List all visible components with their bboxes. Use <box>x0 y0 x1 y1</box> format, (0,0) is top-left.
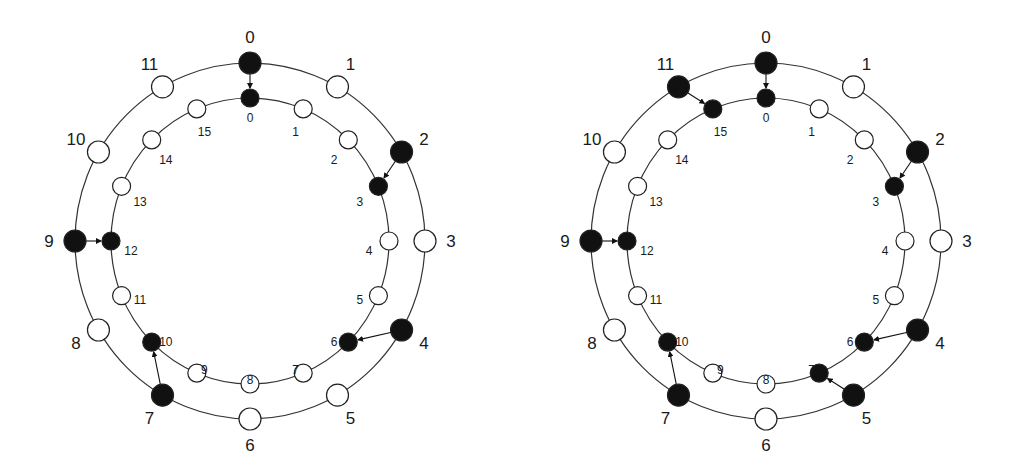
inner-node-label: 11 <box>134 293 147 307</box>
inner-node-label: 10 <box>159 335 173 349</box>
inner-node-14-empty <box>659 131 677 149</box>
outer-node-11-empty <box>152 76 174 98</box>
inner-node-1-empty <box>294 100 312 118</box>
outer-node-2-filled <box>907 141 929 163</box>
outer-node-1-empty <box>327 76 349 98</box>
inner-node-13-empty <box>113 177 131 195</box>
inner-node-13-empty <box>629 177 647 195</box>
inner-node-11-empty <box>113 287 131 305</box>
outer-node-label: 11 <box>141 55 159 74</box>
outer-node-label: 7 <box>145 409 154 428</box>
inner-node-0-filled <box>757 89 775 107</box>
outer-node-label: 0 <box>761 28 770 47</box>
outer-node-label: 1 <box>862 55 871 74</box>
outer-node-label: 1 <box>346 55 355 74</box>
inner-node-2-empty <box>855 131 873 149</box>
inner-node-label: 5 <box>873 293 880 307</box>
mapping-arrow <box>874 332 909 340</box>
mapping-arrow <box>686 92 704 104</box>
inner-node-label: 2 <box>331 153 338 167</box>
inner-node-2-empty <box>339 131 357 149</box>
inner-node-15-empty <box>188 100 206 118</box>
outer-node-label: 7 <box>661 409 670 428</box>
inner-node-label: 1 <box>292 125 299 139</box>
inner-node-12-filled <box>102 232 120 250</box>
inner-node-label: 0 <box>247 111 254 125</box>
inner-node-3-filled <box>885 177 903 195</box>
inner-node-11-empty <box>629 287 647 305</box>
inner-node-label: 4 <box>882 244 889 258</box>
outer-node-5-empty <box>327 384 349 406</box>
inner-node-label: 1 <box>808 125 815 139</box>
inner-node-label: 9 <box>201 363 208 377</box>
outer-node-4-filled <box>391 319 413 341</box>
inner-node-label: 8 <box>247 373 254 387</box>
inner-node-label: 10 <box>675 335 689 349</box>
outer-node-label: 11 <box>657 55 675 74</box>
inner-node-label: 14 <box>159 153 173 167</box>
outer-node-10-empty <box>87 141 109 163</box>
inner-node-label: 11 <box>650 293 663 307</box>
inner-node-label: 12 <box>124 244 138 258</box>
outer-node-label: 9 <box>560 232 569 251</box>
outer-node-0-filled <box>755 52 777 74</box>
inner-node-label: 7 <box>808 363 815 377</box>
outer-node-label: 10 <box>66 130 85 149</box>
inner-node-6-filled <box>339 333 357 351</box>
inner-node-label: 3 <box>873 195 880 209</box>
inner-node-10-filled <box>659 333 677 351</box>
outer-node-7-filled <box>668 384 690 406</box>
inner-node-label: 13 <box>649 195 663 209</box>
diagram-left: 012345678910110123456789101112131415 <box>44 28 455 455</box>
inner-node-label: 8 <box>763 373 770 387</box>
outer-node-label: 4 <box>419 334 428 353</box>
outer-node-label: 3 <box>962 232 971 251</box>
outer-node-label: 10 <box>582 130 601 149</box>
inner-node-14-empty <box>143 131 161 149</box>
inner-node-4-empty <box>380 232 398 250</box>
outer-node-7-filled <box>152 384 174 406</box>
outer-node-2-filled <box>391 141 413 163</box>
outer-node-label: 6 <box>761 436 770 455</box>
inner-node-0-filled <box>241 89 259 107</box>
inner-node-3-filled <box>369 177 387 195</box>
outer-node-label: 9 <box>44 232 53 251</box>
outer-node-6-empty <box>755 408 777 430</box>
outer-node-8-empty <box>603 319 625 341</box>
outer-node-label: 6 <box>245 436 254 455</box>
inner-node-label: 0 <box>763 111 770 125</box>
outer-node-9-filled <box>580 230 602 252</box>
inner-node-label: 15 <box>714 125 728 139</box>
outer-node-label: 2 <box>935 130 944 149</box>
outer-node-label: 8 <box>587 334 596 353</box>
inner-node-label: 15 <box>198 125 212 139</box>
outer-node-5-filled <box>843 384 865 406</box>
inner-node-label: 3 <box>357 195 364 209</box>
inner-node-label: 6 <box>331 335 338 349</box>
mapping-arrow <box>828 379 846 391</box>
mapping-arrow <box>900 159 913 178</box>
inner-node-1-empty <box>810 100 828 118</box>
outer-node-8-empty <box>87 319 109 341</box>
inner-node-label: 6 <box>847 335 854 349</box>
inner-node-label: 14 <box>675 153 689 167</box>
inner-node-label: 13 <box>133 195 147 209</box>
outer-node-9-filled <box>64 230 86 252</box>
outer-node-3-empty <box>414 230 436 252</box>
outer-node-label: 5 <box>346 409 355 428</box>
ring-mapping-diagram: 0123456789101101234567891011121314150123… <box>0 0 1011 473</box>
inner-node-6-filled <box>855 333 873 351</box>
inner-node-5-empty <box>369 287 387 305</box>
inner-node-10-filled <box>143 333 161 351</box>
outer-node-label: 5 <box>862 409 871 428</box>
mapping-arrow <box>358 332 393 340</box>
inner-node-4-empty <box>896 232 914 250</box>
inner-node-label: 5 <box>357 293 364 307</box>
outer-node-6-empty <box>239 408 261 430</box>
mapping-arrow <box>670 352 677 386</box>
outer-node-10-empty <box>603 141 625 163</box>
outer-node-0-filled <box>239 52 261 74</box>
outer-node-label: 8 <box>71 334 80 353</box>
outer-node-3-empty <box>930 230 952 252</box>
outer-node-11-filled <box>668 76 690 98</box>
